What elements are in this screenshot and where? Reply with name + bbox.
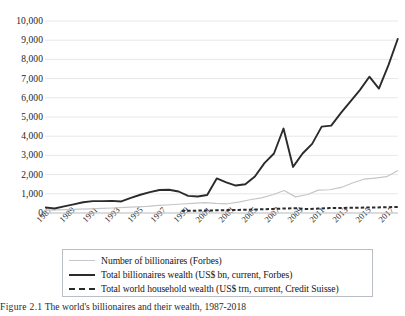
- legend-label-number-of-billionaires: Number of billionaires (Forbes): [101, 255, 222, 266]
- legend-item-total-world-household-wealth: Total world household wealth (US$ trn, c…: [63, 281, 372, 295]
- figure-caption-text: The world's billionaires and their wealt…: [45, 301, 246, 312]
- figure-caption-label: Figure 2.1: [0, 301, 42, 312]
- series-layer: [45, 38, 398, 211]
- chart-svg: [0, 0, 405, 246]
- legend-label-total-billionaires-wealth: Total billionaires wealth (US$ bn, curre…: [101, 269, 292, 280]
- series-total-world-household-wealth: [182, 207, 398, 211]
- thick-dark-line-icon: [69, 269, 95, 279]
- legend-item-total-billionaires-wealth: Total billionaires wealth (US$ bn, curre…: [63, 267, 372, 281]
- dashed-dark-line-icon: [69, 283, 95, 293]
- legend-label-total-world-household-wealth: Total world household wealth (US$ trn, c…: [101, 283, 339, 294]
- legend-item-number-of-billionaires: Number of billionaires (Forbes): [63, 253, 372, 267]
- thin-light-line-icon: [69, 255, 95, 265]
- chart-legend: Number of billionaires (Forbes) Total bi…: [62, 249, 373, 297]
- series-number-of-billionaires: [45, 171, 398, 211]
- series-total-billionaires-wealth: [45, 38, 398, 208]
- figure-caption: Figure 2.1 The world's billionaires and …: [0, 301, 405, 313]
- chart-plot-area: 10,0009,0008,0007,0006,0005,0004,0003,00…: [0, 0, 405, 246]
- figure-container: 10,0009,0008,0007,0006,0005,0004,0003,00…: [0, 0, 405, 316]
